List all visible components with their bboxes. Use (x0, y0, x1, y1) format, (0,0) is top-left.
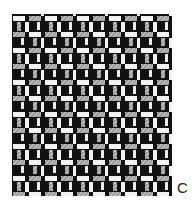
weave-figure (12, 14, 172, 196)
weave-pattern-graphic (12, 14, 172, 196)
panel-label: C (177, 180, 188, 195)
